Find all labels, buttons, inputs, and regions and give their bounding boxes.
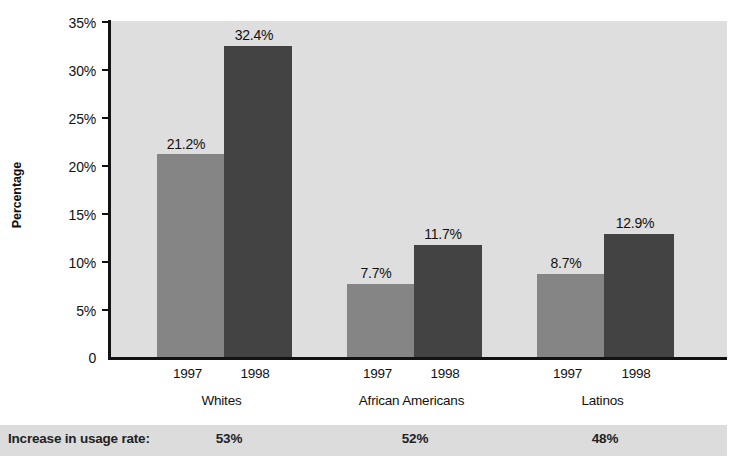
- group-label-latinos: Latinos: [534, 393, 671, 408]
- bar-latinos-1998[interactable]: [604, 234, 674, 358]
- bar-value-latinos-1997: 8.7%: [530, 255, 602, 271]
- chart-figure: Percentage 35% 30% 25% 20% 15% 10% 5% 0 …: [0, 0, 737, 469]
- y-tick-label-5: 5%: [38, 303, 96, 319]
- footer-value-african-americans: 52%: [385, 431, 445, 446]
- bar-value-whites-1997: 21.2%: [150, 136, 222, 152]
- x-axis-line: [108, 357, 727, 360]
- bar-value-whites-1998: 32.4%: [217, 27, 291, 43]
- y-axis-line: [108, 20, 111, 360]
- bar-latinos-1997[interactable]: [537, 274, 604, 358]
- footer-label: Increase in usage rate:: [8, 431, 150, 446]
- group-label-whites: Whites: [154, 393, 289, 408]
- bar-african-americans-1998[interactable]: [414, 245, 482, 358]
- y-tick-label-15: 15%: [38, 207, 96, 223]
- y-tick-label-0: 0: [38, 350, 96, 366]
- bar-value-latinos-1998: 12.9%: [597, 215, 673, 231]
- bar-whites-1997[interactable]: [157, 154, 224, 358]
- bar-african-americans-1997[interactable]: [347, 284, 414, 358]
- bar-whites-1998[interactable]: [224, 46, 292, 358]
- footer-value-latinos: 48%: [575, 431, 635, 446]
- y-tick-label-25: 25%: [38, 111, 96, 127]
- plot-area: [110, 21, 727, 358]
- year-label-african-americans-1998: 1998: [411, 366, 479, 381]
- bar-value-african-americans-1998: 11.7%: [405, 226, 481, 242]
- y-tick-label-30: 30%: [38, 63, 96, 79]
- y-tick-label-35: 35%: [38, 15, 96, 31]
- year-label-whites-1997: 1997: [154, 366, 221, 381]
- year-label-latinos-1998: 1998: [601, 366, 671, 381]
- year-label-whites-1998: 1998: [221, 366, 289, 381]
- y-axis-title: Percentage: [10, 145, 24, 245]
- year-label-latinos-1997: 1997: [534, 366, 601, 381]
- y-tick-label-10: 10%: [38, 255, 96, 271]
- bar-value-african-americans-1997: 7.7%: [340, 265, 412, 281]
- year-label-african-americans-1997: 1997: [344, 366, 411, 381]
- group-label-african-americans: African Americans: [344, 393, 479, 408]
- footer-value-whites: 53%: [199, 431, 259, 446]
- y-tick-label-20: 20%: [38, 159, 96, 175]
